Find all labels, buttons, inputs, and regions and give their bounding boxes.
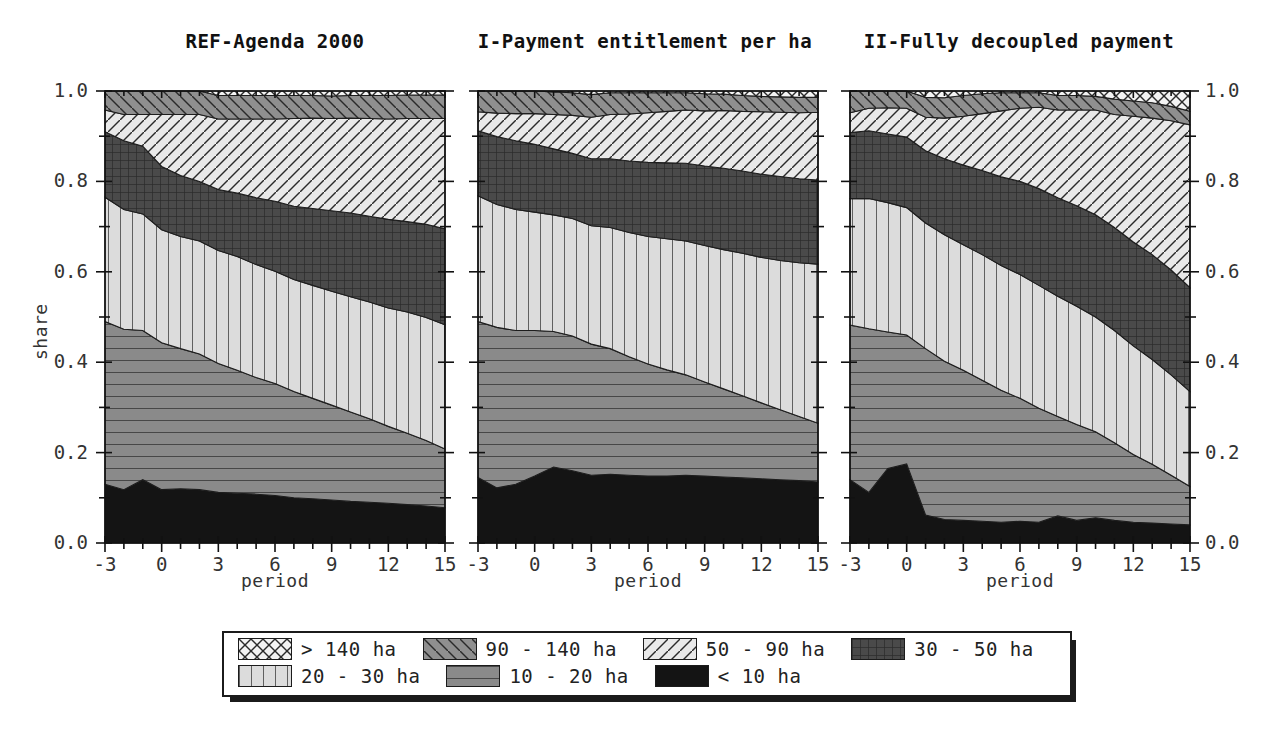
- x-tick-label: 6: [626, 553, 670, 575]
- legend-swatch-horizontal: [446, 665, 500, 687]
- x-tick-label: 0: [140, 553, 184, 575]
- legend-item[interactable]: 90 - 140 ha: [423, 638, 643, 660]
- plot-canvas: [0, 0, 1264, 620]
- legend-swatch-vertical: [238, 665, 292, 687]
- legend-swatch-grid-fine: [851, 638, 905, 660]
- legend-item[interactable]: < 10 ha: [655, 665, 828, 687]
- x-tick-label: 12: [739, 553, 783, 575]
- legend-box: > 140 ha90 - 140 ha50 - 90 ha30 - 50 ha …: [222, 631, 1072, 697]
- legend-label: > 140 ha: [301, 638, 397, 660]
- y-tick-label: 0.4: [1205, 350, 1239, 372]
- x-tick-label: 9: [310, 553, 354, 575]
- legend-swatch-solid-dark: [655, 665, 709, 687]
- x-tick-label: 0: [513, 553, 557, 575]
- figure-root: REF-Agenda 2000 I-Payment entitlement pe…: [0, 0, 1264, 732]
- y-tick-label: 0.0: [1205, 531, 1239, 553]
- y-tick-label: 1.0: [30, 79, 88, 101]
- legend-item[interactable]: 20 - 30 ha: [238, 665, 446, 687]
- x-tick-label: 6: [998, 553, 1042, 575]
- legend-row-1: > 140 ha90 - 140 ha50 - 90 ha30 - 50 ha: [238, 638, 1060, 660]
- y-tick-label: 0.6: [1205, 260, 1239, 282]
- legend-label: 90 - 140 ha: [486, 638, 617, 660]
- legend-item[interactable]: 50 - 90 ha: [643, 638, 851, 660]
- x-tick-label: -3: [83, 553, 127, 575]
- legend-item[interactable]: > 140 ha: [238, 638, 423, 660]
- y-tick-label: 0.6: [30, 260, 88, 282]
- legend-item[interactable]: 30 - 50 ha: [851, 638, 1059, 660]
- x-tick-label: 9: [683, 553, 727, 575]
- x-tick-label: -3: [828, 553, 872, 575]
- y-tick-label: 0.8: [1205, 169, 1239, 191]
- x-tick-label: 6: [253, 553, 297, 575]
- x-tick-label: 3: [196, 553, 240, 575]
- y-tick-label: 1.0: [1205, 79, 1239, 101]
- y-tick-label: 0.2: [30, 441, 88, 463]
- x-tick-label: 3: [941, 553, 985, 575]
- x-tick-label: 0: [885, 553, 929, 575]
- x-tick-label: 9: [1055, 553, 1099, 575]
- legend-swatch-diagonal-back: [423, 638, 477, 660]
- x-tick-label: 15: [1168, 553, 1212, 575]
- x-tick-label: -3: [456, 553, 500, 575]
- legend-label: 20 - 30 ha: [301, 665, 420, 687]
- x-tick-label: 12: [1111, 553, 1155, 575]
- legend-swatch-crosshatch-diag: [238, 638, 292, 660]
- x-tick-label: 12: [366, 553, 410, 575]
- legend-row-2: 20 - 30 ha10 - 20 ha< 10 ha: [238, 665, 827, 687]
- y-tick-label: 0.4: [30, 350, 88, 372]
- y-tick-label: 0.0: [30, 531, 88, 553]
- legend-label: 50 - 90 ha: [706, 638, 825, 660]
- legend-swatch-diagonal-fwd: [643, 638, 697, 660]
- y-tick-label: 0.2: [1205, 441, 1239, 463]
- legend-item[interactable]: 10 - 20 ha: [446, 665, 654, 687]
- legend-label: 10 - 20 ha: [509, 665, 628, 687]
- legend-label: < 10 ha: [718, 665, 802, 687]
- legend-label: 30 - 50 ha: [914, 638, 1033, 660]
- y-tick-label: 0.8: [30, 169, 88, 191]
- x-tick-label: 3: [569, 553, 613, 575]
